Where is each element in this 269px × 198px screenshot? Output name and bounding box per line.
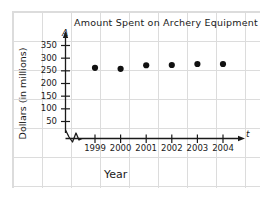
data-point <box>220 61 226 67</box>
plot-area <box>0 0 269 198</box>
axes <box>63 31 245 142</box>
data-point <box>143 62 149 68</box>
data-point <box>194 61 200 67</box>
data-point <box>169 62 175 68</box>
data-point <box>92 65 98 71</box>
data-points <box>92 61 226 72</box>
x-axis-arrow-icon <box>238 136 245 141</box>
data-point <box>118 66 124 72</box>
axis-break-zigzag-icon <box>66 130 83 142</box>
chart-figure: Amount Spent on Archery Equipment Dollar… <box>0 0 269 198</box>
axis-ticks <box>61 46 223 144</box>
y-axis-arrow-icon <box>63 31 68 38</box>
